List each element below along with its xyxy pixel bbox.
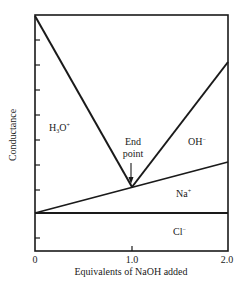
end-point-line1: End [123, 136, 144, 148]
cl-charge: − [182, 226, 185, 232]
x-axis-label: Equivalents of NaOH added [74, 266, 187, 277]
oh-text: OH [188, 136, 202, 147]
na-charge: + [188, 188, 191, 194]
region-label-cl: Cl− [173, 226, 186, 237]
h3o-charge: + [66, 122, 69, 128]
y-axis-label: Conductance [7, 109, 18, 161]
conductance-chart [0, 0, 243, 290]
h3o-conductance-line [35, 16, 132, 187]
na-text: Na [176, 188, 188, 199]
x-tick-label-1: 1.0 [126, 254, 139, 265]
x-tick-label-0: 0 [33, 254, 38, 265]
oh-conductance-line [132, 62, 228, 187]
end-point-annotation: End point [123, 136, 144, 160]
region-label-oh: OH− [188, 136, 206, 147]
region-label-h3o: H3O+ [49, 122, 70, 134]
region-label-na: Na+ [176, 188, 191, 199]
oh-charge: − [202, 136, 205, 142]
end-point-line2: point [123, 148, 144, 160]
x-tick-label-2: 2.0 [221, 254, 234, 265]
